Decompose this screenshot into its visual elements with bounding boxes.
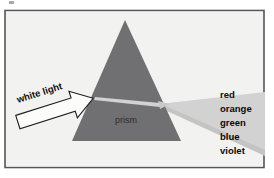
scan-speck-artifact <box>9 1 14 4</box>
spectrum-label-red: red <box>220 89 235 100</box>
prism-label: prism <box>115 115 137 125</box>
spectrum-label-blue: blue <box>220 131 240 142</box>
spectrum-label-green: green <box>220 117 246 128</box>
spectrum-label-violet: violet <box>220 145 246 156</box>
figure-canvas: prism white light red orange green blue … <box>0 0 274 178</box>
spectrum-label-orange: orange <box>220 103 252 114</box>
prism-dispersion-figure: prism white light red orange green blue … <box>0 0 274 178</box>
